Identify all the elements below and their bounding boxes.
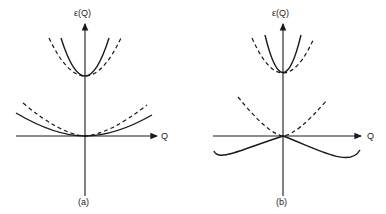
panel-caption: (a): [78, 197, 89, 207]
lower-solid-curve: [214, 136, 360, 158]
x-axis-label: Q: [367, 131, 374, 141]
panel-caption: (b): [276, 197, 287, 207]
panel-b: ε(Q) Q (b): [213, 8, 374, 207]
lower-dashed-curve: [238, 97, 326, 136]
dispersion-diagram: ε(Q) Q (a) ε(Q) Q (b): [0, 0, 386, 214]
y-axis-label: ε(Q): [272, 8, 289, 18]
x-axis-label: Q: [161, 131, 168, 141]
panel-a: ε(Q) Q (a): [16, 8, 168, 207]
y-axis-label: ε(Q): [74, 8, 91, 18]
